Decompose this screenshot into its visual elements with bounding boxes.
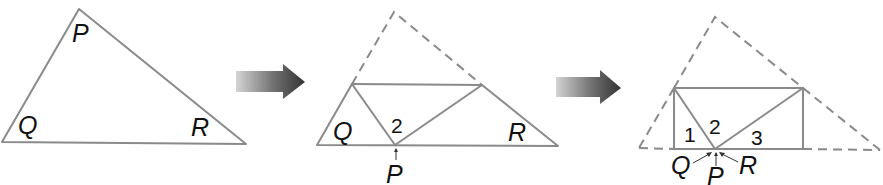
step2-label-q: Q — [333, 117, 352, 145]
step2-folded-left-edge — [352, 84, 395, 145]
step3-pointer-q-arrowhead-icon — [706, 152, 712, 157]
step1-triangle-group: P Q R — [2, 9, 246, 144]
step3-dashed-base-left — [639, 148, 674, 149]
step2-folded-right-edge — [395, 85, 482, 145]
step3-triangle-group: 1 2 3 Q P R — [639, 17, 880, 185]
diagram-canvas: P Q R 2 Q R P — [0, 0, 883, 185]
step2-dashed-apex — [352, 12, 482, 85]
step3-angle-1: 1 — [684, 123, 696, 146]
step3-pointer-p-arrowhead-icon — [714, 152, 718, 156]
step3-label-p: P — [707, 162, 724, 185]
step3-label-q: Q — [671, 151, 690, 179]
step2-label-r: R — [508, 118, 526, 146]
step3-dashed-apex — [674, 17, 803, 88]
step1-label-q: Q — [18, 111, 37, 139]
step3-dashed-right — [803, 88, 880, 150]
step3-label-r: R — [739, 151, 757, 179]
right-arrow-icon — [236, 64, 305, 99]
step2-fold-line — [352, 84, 482, 85]
step1-triangle — [2, 9, 246, 144]
step2-pointer-arrowhead-icon — [394, 148, 398, 152]
step1-label-p: P — [72, 19, 89, 47]
step3-angle-3: 3 — [751, 126, 763, 149]
step3-angle-2: 2 — [709, 115, 721, 138]
step2-angle-2: 2 — [391, 114, 403, 137]
step3-dashed-base-right — [803, 149, 880, 150]
step1-label-r: R — [191, 113, 209, 141]
right-arrow-icon — [556, 70, 621, 104]
step2-triangle-group: 2 Q R P — [317, 12, 558, 185]
step2-label-p: P — [386, 160, 403, 185]
step3-dashed-left — [639, 88, 674, 148]
